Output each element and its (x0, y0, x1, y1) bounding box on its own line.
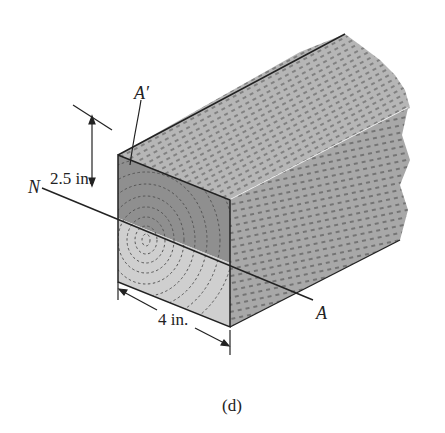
label-a: A (315, 303, 328, 323)
label-height-dim: 2.5 in. (50, 169, 93, 188)
beam-diagram: A′ N 2.5 in. 4 in. A (d) (0, 0, 445, 433)
label-n: N (27, 177, 41, 197)
wood-beam-figure: A′ N 2.5 in. 4 in. A (d) (0, 0, 445, 433)
label-a-prime: A′ (133, 83, 150, 103)
figure-caption: (d) (222, 396, 242, 415)
label-width-dim: 4 in. (158, 310, 188, 329)
